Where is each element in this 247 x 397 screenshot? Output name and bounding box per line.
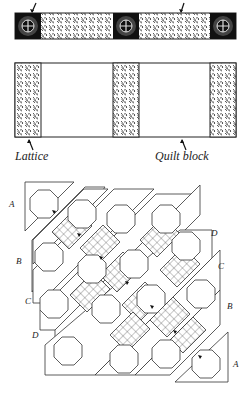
arrow-icon	[179, 3, 184, 13]
corner-square-middle	[113, 13, 139, 39]
quilt-block-label: Quilt block	[155, 150, 209, 162]
lattice-strip-left	[15, 63, 41, 137]
row-label-left-c: C	[25, 297, 31, 306]
corner-square-left	[15, 13, 41, 39]
arrow-icon	[30, 3, 36, 13]
row-label-right-a: A	[233, 360, 239, 369]
row-label-right-d: D	[211, 229, 218, 238]
row-label-right-c: C	[218, 262, 224, 271]
top-lattice-strip	[15, 3, 236, 39]
corner-square-right	[210, 13, 236, 39]
row-label-left-a: A	[9, 200, 15, 209]
lattice-strip-right	[210, 63, 236, 137]
lattice-and-blocks-panel	[15, 63, 236, 150]
row-label-right-b: B	[227, 302, 233, 311]
row-label-left-d: D	[32, 331, 39, 340]
row-label-left-b: B	[16, 257, 22, 266]
lattice-label: Lattice	[15, 150, 48, 162]
lattice-strip-middle	[113, 63, 139, 137]
diagonal-setting-layout	[25, 182, 228, 382]
